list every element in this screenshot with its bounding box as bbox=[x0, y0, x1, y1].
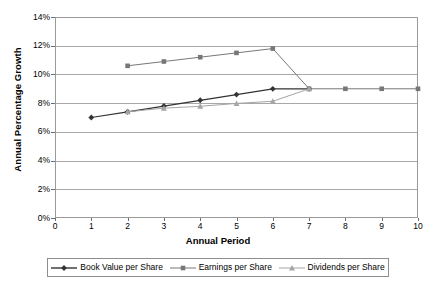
x-tick-label: 10 bbox=[408, 222, 428, 231]
y-tick-label: 2% bbox=[16, 185, 50, 194]
square-marker bbox=[379, 86, 384, 91]
x-tick-mark bbox=[164, 218, 165, 221]
x-tick-mark bbox=[418, 218, 419, 221]
x-tick-label: 3 bbox=[154, 222, 174, 231]
x-tick-label: 0 bbox=[45, 222, 65, 231]
square-marker bbox=[170, 263, 196, 273]
x-tick-mark bbox=[91, 218, 92, 221]
x-tick-label: 2 bbox=[118, 222, 138, 231]
x-tick-mark bbox=[237, 218, 238, 221]
square-marker bbox=[271, 46, 276, 51]
x-tick-label: 4 bbox=[190, 222, 210, 231]
legend-label: Earnings per Share bbox=[199, 263, 272, 272]
series-layer bbox=[55, 17, 418, 218]
series-line bbox=[128, 49, 418, 89]
diamond-marker bbox=[234, 92, 240, 98]
x-tick-mark bbox=[128, 218, 129, 221]
y-tick-label: 8% bbox=[16, 99, 50, 108]
triangle-marker bbox=[279, 263, 305, 273]
legend-label: Dividends per Share bbox=[308, 263, 385, 272]
y-tick-label: 12% bbox=[16, 41, 50, 50]
chart-legend: Book Value per ShareEarnings per ShareDi… bbox=[47, 258, 389, 277]
diamond-marker bbox=[197, 97, 203, 103]
legend-item[interactable]: Book Value per Share bbox=[51, 263, 163, 273]
x-tick-mark bbox=[382, 218, 383, 221]
y-tick-label: 4% bbox=[16, 156, 50, 165]
x-tick-label: 5 bbox=[227, 222, 247, 231]
square-marker bbox=[343, 86, 348, 91]
line-chart: Annual Percentage Growth 0%2%4%6%8%10%12… bbox=[0, 0, 436, 286]
diamond-marker bbox=[61, 265, 67, 271]
series-line bbox=[128, 89, 310, 112]
legend-label: Book Value per Share bbox=[80, 263, 163, 272]
x-tick-label: 9 bbox=[372, 222, 392, 231]
legend-item[interactable]: Dividends per Share bbox=[279, 263, 385, 273]
diamond-marker bbox=[270, 86, 276, 92]
series-earnings-per-share bbox=[125, 46, 420, 91]
diamond-marker bbox=[51, 263, 77, 273]
x-tick-mark bbox=[309, 218, 310, 221]
x-tick-mark bbox=[273, 218, 274, 221]
square-marker bbox=[125, 64, 130, 69]
square-marker bbox=[234, 51, 239, 56]
y-tick-label: 14% bbox=[16, 13, 50, 22]
square-marker bbox=[198, 55, 203, 60]
legend-item[interactable]: Earnings per Share bbox=[170, 263, 272, 273]
square-marker bbox=[180, 265, 185, 270]
x-tick-label: 8 bbox=[335, 222, 355, 231]
x-axis-title: Annual Period bbox=[0, 235, 436, 246]
x-tick-label: 1 bbox=[81, 222, 101, 231]
x-tick-mark bbox=[55, 218, 56, 221]
square-marker bbox=[162, 59, 167, 64]
series-book-value-per-share bbox=[88, 86, 312, 121]
x-tick-mark bbox=[200, 218, 201, 221]
x-tick-label: 6 bbox=[263, 222, 283, 231]
plot-area bbox=[55, 17, 418, 218]
square-marker bbox=[416, 86, 421, 91]
diamond-marker bbox=[88, 115, 94, 121]
x-tick-label: 7 bbox=[299, 222, 319, 231]
y-tick-label: 6% bbox=[16, 127, 50, 136]
series-dividends-per-share bbox=[125, 86, 313, 115]
x-tick-mark bbox=[345, 218, 346, 221]
y-tick-label: 10% bbox=[16, 70, 50, 79]
